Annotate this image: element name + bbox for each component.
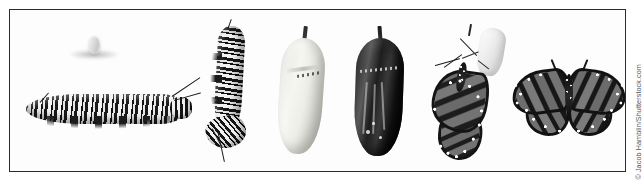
chrysalis-shell-stalk — [468, 24, 472, 36]
caterpillar-curled-head — [203, 112, 249, 152]
chrysalis-white-spot — [372, 122, 375, 125]
butterfly-forewing-left — [510, 67, 573, 118]
photo-credit-text: © Jacob Hamblin/Shutterstock.com — [635, 52, 642, 180]
butterfly-body-spots — [565, 76, 573, 110]
chrysalis-white-spot — [366, 130, 370, 134]
butterfly-forewing-right — [566, 67, 626, 118]
stage-caterpillar-horizontal — [22, 88, 200, 140]
stage-strip — [10, 10, 625, 171]
photo-plate-frame — [9, 9, 626, 172]
empty-chrysalis-shell — [474, 26, 507, 77]
stage-chrysalis-fresh — [272, 26, 334, 166]
stage-caterpillar-j-hang — [202, 24, 264, 166]
stage-egg-on-leaf — [68, 32, 120, 66]
life-cycle-figure: © Jacob Hamblin/Shutterstock.com — [0, 0, 644, 186]
caterpillar-prolegs — [210, 42, 222, 122]
chrysalis-white-spot — [379, 136, 382, 139]
chrysalis-pale-body — [275, 37, 327, 156]
egg-body — [89, 37, 100, 54]
caterpillar-prolegs — [34, 116, 170, 129]
stage-chrysalis-mature — [348, 26, 414, 166]
stage-butterfly-adult — [510, 58, 626, 148]
photo-credit: © Jacob Hamblin/Shutterstock.com — [630, 52, 644, 180]
